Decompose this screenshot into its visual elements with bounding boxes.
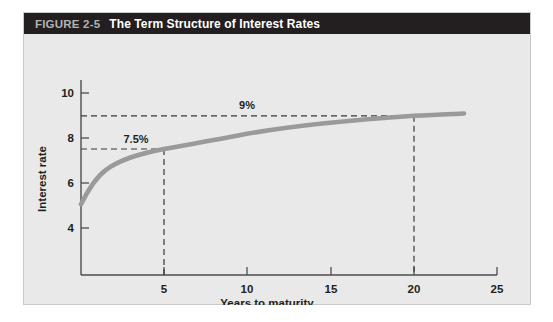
x-tick-label-15: 15 — [325, 283, 338, 295]
figure-header-bar: FIGURE 2-5 The Term Structure of Interes… — [24, 13, 530, 34]
x-tick-label-10: 10 — [241, 283, 254, 295]
x-tick-label-20: 20 — [408, 283, 421, 295]
x-tick-label-25: 25 — [491, 283, 504, 295]
y-tick-label-6: 6 — [68, 177, 74, 189]
y-axis-title: Interest rate — [36, 146, 48, 212]
y-tick-label-10: 10 — [61, 87, 74, 99]
x-tick-label-5: 5 — [161, 283, 168, 295]
y-tick-label-8: 8 — [68, 132, 75, 144]
figure-title: The Term Structure of Interest Rates — [109, 17, 320, 31]
chart-plot-area: 10 8 6 4 5 10 15 20 25 Years to maturity… — [24, 34, 532, 305]
x-axis-title: Years to maturity — [220, 297, 314, 305]
yield-curve — [81, 114, 464, 205]
y-tick-label-4: 4 — [68, 222, 75, 234]
annotation-label-9pct: 9% — [239, 99, 255, 111]
figure-panel: FIGURE 2-5 The Term Structure of Interes… — [23, 12, 531, 305]
figure-number: FIGURE 2-5 — [35, 18, 100, 30]
annotation-label-75pct: 7.5% — [123, 133, 148, 145]
term-structure-line-chart: 10 8 6 4 5 10 15 20 25 Years to maturity… — [24, 34, 532, 305]
